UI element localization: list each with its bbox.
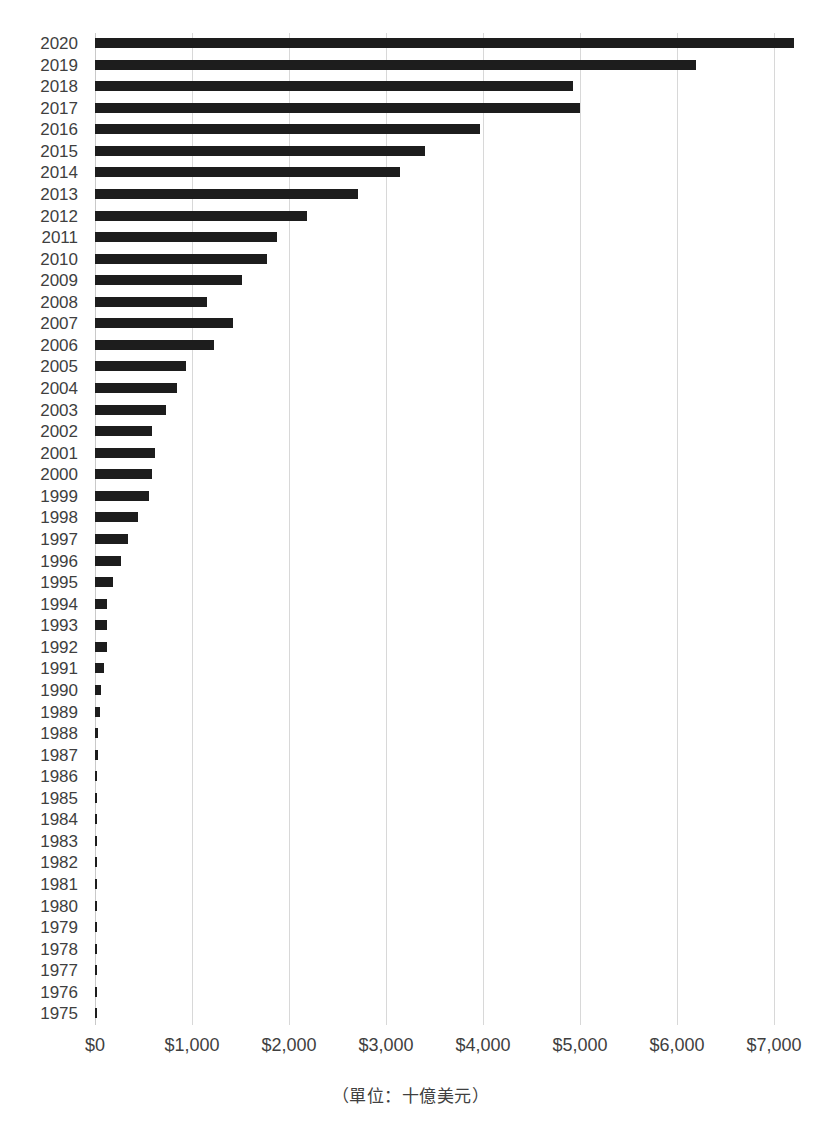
bar-1999 [95, 491, 149, 501]
y-tick-label-1987: 1987 [40, 745, 78, 766]
y-tick-label-1999: 1999 [40, 486, 78, 507]
y-tick-label-1976: 1976 [40, 982, 78, 1003]
y-tick-label-1988: 1988 [40, 723, 78, 744]
bar-1979 [95, 922, 97, 932]
y-axis-year-labels: 2020201920182017201620152014201320122011… [0, 33, 88, 1025]
bar-2016 [95, 124, 480, 134]
bar-row [95, 270, 774, 291]
bar-row [95, 960, 774, 981]
bar-row [95, 745, 774, 766]
bar-1998 [95, 512, 138, 522]
bar-2005 [95, 361, 186, 371]
y-tick-label-1981: 1981 [40, 874, 78, 895]
bar-1981 [95, 879, 97, 889]
y-tick-label-2001: 2001 [40, 443, 78, 464]
y-tick-label-2009: 2009 [40, 270, 78, 291]
x-tick-label-7000: $7,000 [746, 1035, 801, 1056]
y-tick-label-2011: 2011 [41, 227, 78, 248]
bar-2013 [95, 189, 358, 199]
bar-2004 [95, 383, 177, 393]
bars-layer [95, 33, 774, 1025]
x-tick-label-1000: $1,000 [164, 1035, 219, 1056]
bar-row [95, 1003, 774, 1024]
bar-1993 [95, 620, 107, 630]
x-tick-label-5000: $5,000 [552, 1035, 607, 1056]
bar-1976 [95, 987, 97, 997]
bar-chart-figure: 2020201920182017201620152014201320122011… [0, 0, 821, 1130]
bar-row [95, 788, 774, 809]
bar-2007 [95, 318, 233, 328]
bar-1992 [95, 642, 107, 652]
bar-2009 [95, 275, 242, 285]
x-tick-label-4000: $4,000 [455, 1035, 510, 1056]
bar-2019 [95, 60, 696, 70]
bar-row [95, 400, 774, 421]
y-tick-label-2002: 2002 [40, 421, 78, 442]
bar-row [95, 33, 774, 54]
y-tick-label-1977: 1977 [40, 960, 78, 981]
bar-row [95, 507, 774, 528]
y-tick-label-1980: 1980 [40, 896, 78, 917]
bar-2018 [95, 81, 573, 91]
y-tick-label-1992: 1992 [40, 637, 78, 658]
bar-2010 [95, 254, 267, 264]
bar-1980 [95, 901, 97, 911]
y-tick-label-2003: 2003 [40, 400, 78, 421]
y-tick-label-1985: 1985 [40, 788, 78, 809]
y-tick-label-2008: 2008 [40, 292, 78, 313]
bar-2015 [95, 146, 425, 156]
y-tick-label-1997: 1997 [40, 529, 78, 550]
y-tick-label-1994: 1994 [40, 594, 78, 615]
bar-row [95, 141, 774, 162]
bar-1985 [95, 793, 97, 803]
bar-1988 [95, 728, 98, 738]
bar-row [95, 917, 774, 938]
y-tick-label-1979: 1979 [40, 917, 78, 938]
bar-2020 [95, 38, 794, 48]
y-tick-label-2014: 2014 [40, 162, 78, 183]
bar-1982 [95, 857, 97, 867]
bar-row [95, 98, 774, 119]
bar-1991 [95, 663, 104, 673]
bar-2001 [95, 448, 155, 458]
y-tick-label-1975: 1975 [40, 1003, 78, 1024]
y-tick-label-2016: 2016 [40, 119, 78, 140]
x-tick-label-0: $0 [85, 1035, 105, 1056]
bar-row [95, 766, 774, 787]
y-tick-label-2012: 2012 [40, 206, 78, 227]
y-tick-label-1991: 1991 [40, 658, 78, 679]
bar-row [95, 313, 774, 334]
bar-row [95, 852, 774, 873]
bar-row [95, 896, 774, 917]
bar-1996 [95, 556, 121, 566]
bar-row [95, 702, 774, 723]
bar-row [95, 378, 774, 399]
bar-row [95, 637, 774, 658]
bar-row [95, 723, 774, 744]
x-tick-label-6000: $6,000 [649, 1035, 704, 1056]
y-tick-label-1993: 1993 [40, 615, 78, 636]
bar-1984 [95, 814, 97, 824]
bar-row [95, 982, 774, 1003]
bar-1975 [95, 1008, 97, 1018]
y-tick-label-1983: 1983 [40, 831, 78, 852]
y-tick-label-1990: 1990 [40, 680, 78, 701]
y-tick-label-2000: 2000 [40, 464, 78, 485]
bar-row [95, 831, 774, 852]
bar-row [95, 335, 774, 356]
y-tick-label-1984: 1984 [40, 809, 78, 830]
bar-row [95, 529, 774, 550]
bar-row [95, 680, 774, 701]
bar-row [95, 119, 774, 140]
bar-1989 [95, 707, 100, 717]
bar-row [95, 809, 774, 830]
bar-row [95, 249, 774, 270]
y-tick-label-2007: 2007 [40, 313, 78, 334]
y-tick-label-2004: 2004 [40, 378, 78, 399]
bar-row [95, 76, 774, 97]
y-tick-label-2019: 2019 [40, 55, 78, 76]
bar-row [95, 615, 774, 636]
plot-area [95, 33, 774, 1025]
y-tick-label-1978: 1978 [40, 939, 78, 960]
bar-2006 [95, 340, 214, 350]
